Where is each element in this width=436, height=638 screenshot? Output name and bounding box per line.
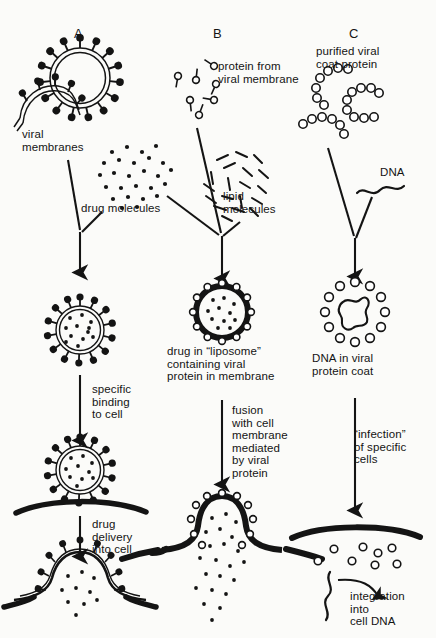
label-integration-into-cell-dna: integration into cell DNA bbox=[350, 590, 405, 628]
label-lipid-molecules: lipid molecules bbox=[223, 190, 276, 215]
vesicle-bound-a bbox=[44, 434, 115, 505]
label-protein-from-viral-membrane: protein from viral membrane bbox=[218, 60, 299, 85]
panel-letter-a: A bbox=[74, 28, 83, 41]
liposome-b bbox=[190, 280, 255, 345]
coat-protein-chains-c bbox=[299, 64, 383, 138]
drug-release-a bbox=[4, 537, 156, 616]
host-dna-c bbox=[325, 572, 331, 620]
dna-in-coat-c bbox=[321, 278, 390, 347]
drug-molecule-cloud-a bbox=[98, 144, 173, 210]
diagram-canvas bbox=[0, 0, 436, 638]
dna-strand-c bbox=[357, 186, 404, 193]
panel-a-graphics bbox=[4, 35, 173, 617]
label-drug-delivery: drug delivery into cell bbox=[92, 518, 132, 556]
cell-membrane-c bbox=[292, 527, 420, 538]
liposome-fusion-b bbox=[122, 490, 322, 622]
label-dna-in-viral-protein-coat: DNA in viral protein coat bbox=[312, 352, 373, 377]
label-viral-membranes: viral membranes bbox=[22, 128, 84, 153]
label-purified-viral-coat-protein: purified viral coat protein bbox=[316, 45, 379, 70]
label-fusion-with-cell-membrane: fusion with cell membrane mediated by vi… bbox=[232, 404, 288, 480]
arrow-a-assemble bbox=[68, 160, 102, 272]
label-dna: DNA bbox=[380, 166, 405, 179]
figure-diagram: A viral membranes drug molecules specifi… bbox=[0, 0, 436, 638]
viral-protein-pool-b bbox=[173, 57, 221, 120]
panel-letter-b: B bbox=[213, 28, 222, 41]
released-drug-b bbox=[194, 512, 246, 622]
virus-particle-a bbox=[37, 35, 123, 121]
label-infection-of-specific-cells: “infection” of specific cells bbox=[354, 428, 406, 466]
label-specific-binding: specific binding to cell bbox=[92, 383, 131, 421]
coat-proteins-in-cell-c bbox=[314, 543, 401, 569]
label-drug-molecules: drug molecules bbox=[81, 202, 160, 215]
drug-loaded-vesicle-a bbox=[44, 294, 115, 365]
panel-c-graphics bbox=[292, 64, 420, 620]
label-drug-in-liposome: drug in “liposome” containing viral prot… bbox=[167, 345, 274, 383]
arrow-c-assemble bbox=[328, 148, 372, 276]
cell-membrane-a bbox=[16, 502, 146, 513]
panel-letter-c: C bbox=[349, 28, 359, 41]
